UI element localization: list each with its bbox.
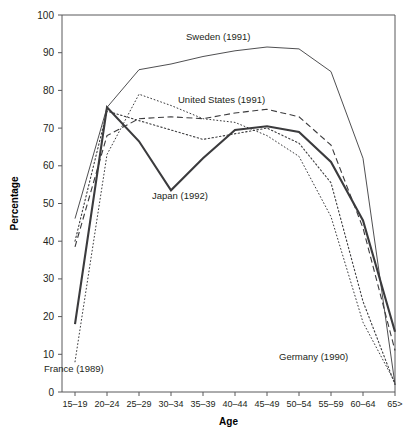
label-japan: Japan (1992) bbox=[152, 190, 208, 201]
x-tick-label: 35–39 bbox=[190, 399, 215, 409]
y-tick-label: 100 bbox=[37, 10, 54, 21]
series-line-united-states-1991 bbox=[75, 109, 395, 350]
y-tick-label: 60 bbox=[43, 160, 55, 171]
y-tick-label: 10 bbox=[43, 349, 55, 360]
series-line-japan-1992 bbox=[75, 107, 395, 331]
y-tick-label: 90 bbox=[43, 47, 55, 58]
x-tick-label: 40–44 bbox=[222, 399, 247, 409]
chart-axes bbox=[62, 15, 395, 392]
x-tick-label: 60–64 bbox=[350, 399, 375, 409]
x-axis-title: Age bbox=[219, 416, 238, 427]
x-tick-label: 15–19 bbox=[62, 399, 87, 409]
y-axis-ticks: 0102030405060708090100 bbox=[37, 10, 62, 398]
x-axis-ticks: 15–1920–2425–2930–3435–3940–4445–4950–54… bbox=[62, 392, 402, 409]
axis-titles: PercentageAge bbox=[9, 176, 238, 427]
x-tick-label: 55–59 bbox=[318, 399, 343, 409]
x-tick-label: 20–24 bbox=[94, 399, 119, 409]
y-tick-label: 40 bbox=[43, 236, 55, 247]
line-chart: 0102030405060708090100 15–1920–2425–2930… bbox=[0, 0, 416, 444]
y-tick-label: 0 bbox=[48, 387, 54, 398]
y-tick-label: 30 bbox=[43, 273, 55, 284]
y-tick-label: 50 bbox=[43, 198, 55, 209]
series-annotations: Sweden (1991)United States (1991)Japan (… bbox=[44, 31, 348, 374]
x-tick-label: 45–49 bbox=[254, 399, 279, 409]
label-france: France (1989) bbox=[44, 363, 104, 374]
x-tick-label: 25–29 bbox=[126, 399, 151, 409]
series-line-germany-1990 bbox=[75, 111, 395, 384]
x-tick-label: 30–34 bbox=[158, 399, 183, 409]
chart-container: 0102030405060708090100 15–1920–2425–2930… bbox=[0, 0, 416, 444]
label-germany: Germany (1990) bbox=[279, 351, 348, 362]
label-united-states: United States (1991) bbox=[178, 94, 265, 105]
x-tick-label: 50–54 bbox=[286, 399, 311, 409]
y-tick-label: 20 bbox=[43, 311, 55, 322]
y-axis-title: Percentage bbox=[9, 176, 20, 230]
axis-frame-top-right bbox=[62, 15, 395, 392]
label-sweden: Sweden (1991) bbox=[186, 31, 250, 42]
y-tick-label: 70 bbox=[43, 123, 55, 134]
y-tick-label: 80 bbox=[43, 85, 55, 96]
axis-frame-left-bottom bbox=[62, 15, 395, 392]
series-line-france-1989 bbox=[75, 94, 395, 382]
x-tick-label: 65> bbox=[387, 399, 402, 409]
